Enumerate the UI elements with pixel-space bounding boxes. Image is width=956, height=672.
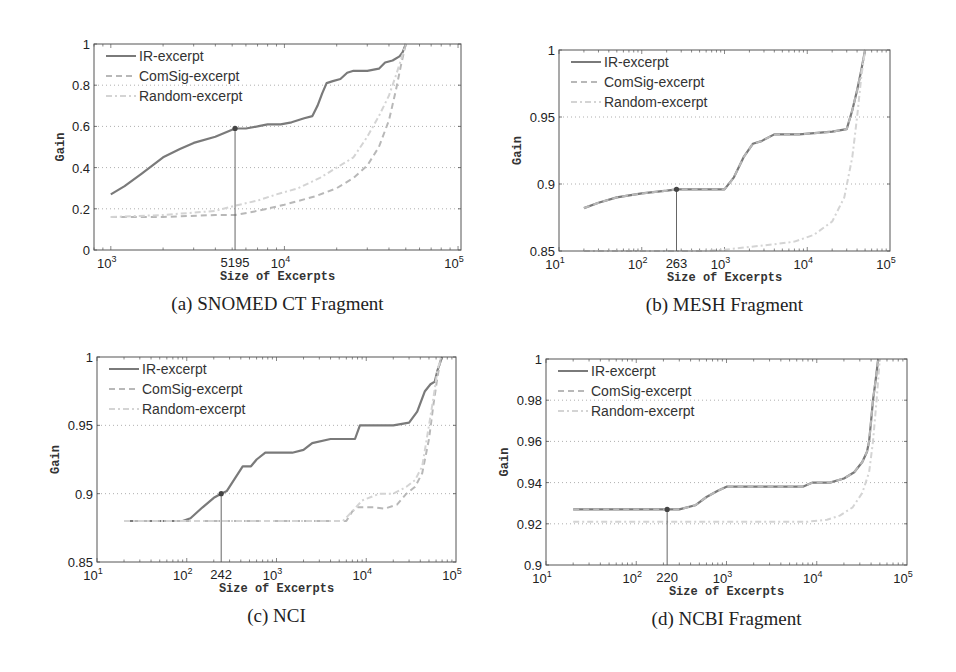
legend-label: IR-excerpt [139,48,204,64]
x-axis-title: Size of Excerpts [220,270,335,284]
x-tick-label: 102 [628,255,647,272]
legend-label: IR-excerpt [142,361,207,377]
y-tick-label: 1 [83,37,90,52]
x-tick-label: 101 [532,569,551,586]
series-ir-excerpt [111,44,406,194]
x-tick-label: 263 [666,256,688,271]
subplot-caption: (a) SNOMED CT Fragment [171,293,384,315]
legend-label: ComSig-excerpt [139,68,239,84]
y-tick-label: 0.92 [517,517,542,532]
y-axis-title: Gain [511,136,525,165]
y-tick-label: 0 [83,243,90,258]
marker-point [665,507,670,512]
y-tick-label: 0.9 [537,177,555,192]
legend-label: Random-excerpt [591,403,695,419]
x-axis-title: Size of Excerpts [667,271,782,285]
x-tick-label: 103 [263,566,282,583]
legend-label: Random-excerpt [142,401,246,417]
legend-label: Random-excerpt [139,88,243,104]
y-tick-label: 0.95 [530,110,555,125]
subplot-caption: (c) NCI [247,605,306,627]
y-tick-label: 0.96 [517,434,542,449]
marker-point [219,491,224,496]
marker-point [674,187,679,192]
legend-label: IR-excerpt [591,363,656,379]
y-tick-label: 0.94 [517,476,542,491]
x-tick-label: 5195 [221,255,250,270]
legend-label: ComSig-excerpt [591,383,691,399]
y-tick-label: 0.8 [72,78,90,93]
y-tick-label: 0.95 [68,418,93,433]
x-tick-label: 101 [545,255,564,272]
y-tick-label: 0.4 [72,161,90,176]
legend-label: ComSig-excerpt [604,74,704,90]
y-tick-label: 0.98 [517,393,542,408]
subplot-caption: (d) NCBI Fragment [652,608,803,630]
subplot-d: 0.90.920.940.960.981101102220103104105IR… [498,352,913,630]
legend-label: Random-excerpt [604,94,708,110]
y-axis-title: Gain [54,133,68,162]
x-tick-label: 105 [893,569,912,586]
x-tick-label: 105 [876,255,895,272]
x-tick-label: 104 [803,569,822,586]
x-tick-label: 103 [711,255,730,272]
y-tick-label: 1 [86,350,93,365]
y-axis-title: Gain [498,448,512,477]
x-tick-label: 102 [623,569,642,586]
legend-label: ComSig-excerpt [142,381,242,397]
x-axis-title: Size of Excerpts [219,582,334,596]
x-tick-label: 105 [442,566,461,583]
y-tick-label: 1 [548,43,555,58]
marker-point [232,126,237,131]
x-tick-label: 104 [794,255,813,272]
x-tick-label: 103 [713,569,732,586]
y-tick-label: 1 [535,352,542,367]
subplot-caption: (b) MESH Fragment [646,294,804,316]
x-tick-label: 220 [656,570,678,585]
series-ir-excerpt [573,359,878,509]
y-axis-title: Gain [49,445,63,474]
x-tick-label: 105 [444,254,463,271]
figure-canvas: 00.20.40.60.811035195104105IR-excerptCom… [0,0,956,672]
x-tick-label: 101 [83,566,102,583]
plots-container: 00.20.40.60.811035195104105IR-excerptCom… [49,37,913,630]
x-axis-title: Size of Excerpts [669,585,784,599]
x-tick-label: 103 [97,254,116,271]
y-tick-label: 0.6 [72,119,90,134]
y-tick-label: 0.2 [72,202,90,217]
y-tick-label: 0.9 [75,487,93,502]
legend-label: IR-excerpt [604,54,669,70]
x-tick-label: 104 [353,566,372,583]
x-tick-label: 104 [271,254,290,271]
x-tick-label: 242 [210,567,232,582]
subplot-a: 00.20.40.60.811035195104105IR-excerptCom… [54,37,464,315]
subplot-b: 0.850.90.951101102263103104105IR-excerpt… [511,43,896,316]
x-tick-label: 102 [173,566,192,583]
subplot-c: 0.850.90.951101102242103104105IR-excerpt… [49,350,462,627]
